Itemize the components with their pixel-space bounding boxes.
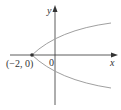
vertex-label: (−2, 0) bbox=[6, 59, 33, 69]
y-axis-label: y bbox=[47, 6, 51, 16]
parabola-curve bbox=[32, 23, 111, 88]
vertex-point bbox=[30, 53, 34, 57]
y-axis-arrow-icon bbox=[53, 5, 58, 12]
x-axis-label: x bbox=[110, 58, 114, 68]
origin-label: 0 bbox=[49, 58, 54, 68]
parabola-diagram bbox=[0, 0, 121, 110]
